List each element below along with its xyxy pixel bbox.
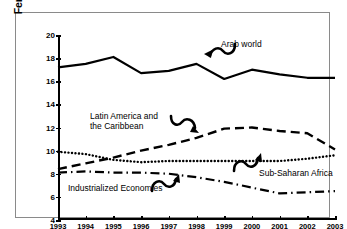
x-tick-label-1997: 1997 bbox=[160, 222, 177, 228]
x-tick-label-2003: 2003 bbox=[327, 222, 344, 228]
y-axis-title-text: Female Unemployment Rate (%) bbox=[12, 0, 24, 27]
curved-arrow-icon-arab-world bbox=[202, 41, 238, 63]
curved-arrow-icon-sub-saharan bbox=[231, 153, 265, 177]
x-tick-label-1999: 1999 bbox=[216, 222, 233, 228]
x-tick-label-2001: 2001 bbox=[271, 222, 288, 228]
annotation-latin-america-line2: the Caribbean bbox=[90, 121, 158, 131]
y-tick-label-16: 16 bbox=[46, 77, 55, 86]
x-tick-label-1995: 1995 bbox=[105, 222, 122, 228]
x-tick-label-2000: 2000 bbox=[244, 222, 261, 228]
curved-arrow-icon-latin-america bbox=[168, 113, 204, 137]
y-tick-label-10: 10 bbox=[46, 146, 55, 155]
annotation-latin-america-line1: Latin America and bbox=[90, 111, 158, 121]
x-tick-label-2002: 2002 bbox=[299, 222, 316, 228]
y-tick-label-18: 18 bbox=[46, 54, 55, 63]
x-tick-label-1998: 1998 bbox=[188, 222, 205, 228]
x-tick-2003 bbox=[335, 216, 337, 220]
y-tick-label-6: 6 bbox=[51, 192, 55, 201]
x-tick-label-1996: 1996 bbox=[133, 222, 150, 228]
annotation-sub-saharan-africa: Sub-Saharan Africa bbox=[259, 168, 333, 178]
figure-frame: Female Unemployment Rate (%) 46810121416… bbox=[15, 12, 330, 218]
x-tick-label-1994: 1994 bbox=[77, 222, 94, 228]
y-tick-label-12: 12 bbox=[46, 123, 55, 132]
x-tick-label-1993: 1993 bbox=[50, 222, 67, 228]
curved-arrow-icon-industrialized bbox=[149, 173, 183, 197]
series-line-arab-world bbox=[58, 57, 335, 79]
y-tick-label-14: 14 bbox=[46, 100, 55, 109]
y-axis-title: Female Unemployment Rate (%) bbox=[12, 0, 28, 27]
y-tick-label-8: 8 bbox=[51, 169, 55, 178]
annotation-latin-america: Latin America and the Caribbean bbox=[90, 111, 158, 131]
y-tick-label-20: 20 bbox=[46, 31, 55, 40]
